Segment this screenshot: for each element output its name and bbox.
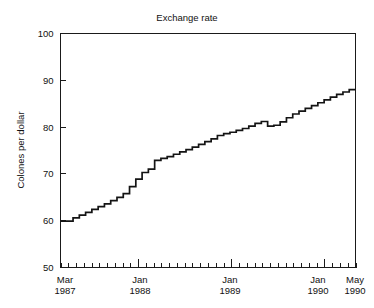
x-tick-label-group: May1990 — [344, 274, 365, 296]
x-tick-label-month: Jan — [310, 274, 325, 285]
y-tick-label: 60 — [43, 215, 54, 226]
x-tick-label-year: 1988 — [129, 285, 150, 296]
x-tick-label-group: Mar1987 — [54, 274, 75, 296]
x-tick-label-group: Jan1990 — [307, 274, 328, 296]
y-axis-title: Colones per dollar — [15, 111, 26, 188]
y-tick-label: 100 — [38, 28, 54, 39]
x-tick-label-year: 1990 — [344, 285, 365, 296]
x-tick-label-month: Jan — [222, 274, 237, 285]
chart-title: Exchange rate — [156, 12, 217, 23]
x-tick-label-month: Mar — [57, 274, 73, 285]
x-tick-label-year: 1987 — [54, 285, 75, 296]
x-tick-label-month: Jan — [132, 274, 147, 285]
exchange-rate-line-chart: Exchange rate 5060708090100 Colones per … — [0, 0, 374, 308]
chart-figure: Exchange rate 5060708090100 Colones per … — [0, 0, 374, 308]
x-tick-label-group: Jan1988 — [129, 274, 150, 296]
x-tick-label-year: 1989 — [219, 285, 240, 296]
y-tick-label: 90 — [43, 75, 54, 86]
x-tick-label-year: 1990 — [307, 285, 328, 296]
chart-background — [0, 0, 374, 308]
y-tick-label: 80 — [43, 122, 54, 133]
x-tick-label-month: May — [346, 274, 364, 285]
x-tick-label-group: Jan1989 — [219, 274, 240, 296]
y-tick-label: 70 — [43, 168, 54, 179]
y-tick-label: 50 — [43, 262, 54, 273]
